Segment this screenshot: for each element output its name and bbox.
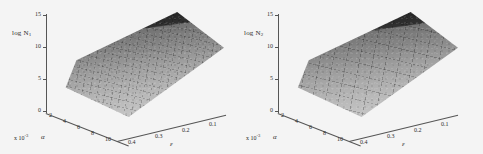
z-tick-label-right-2: 5	[261, 75, 273, 81]
z-axis-label-left: log N1	[12, 29, 31, 37]
x-axis-exponent-power-left: -3	[25, 133, 29, 138]
x-tick-label-right-3: 8	[323, 130, 326, 136]
y-tick-label-left-3: 0.1	[209, 121, 217, 127]
x-axis-name-left: α	[41, 133, 45, 141]
z-axis-label-text-right: log N	[244, 29, 261, 37]
x-axis-exponent-left: x 10-3	[14, 133, 28, 141]
y-tick-label-right-2: 0.2	[414, 127, 422, 133]
z-tick-mark-right-1	[275, 47, 278, 48]
x-tick-label-left-1: 4	[63, 118, 66, 124]
y-tick-label-right-3: 0.1	[441, 121, 449, 127]
z-axis-label-text-left: log N	[12, 29, 29, 37]
x-tick-label-left-2: 6	[77, 124, 80, 130]
z-axis-line-left	[46, 14, 47, 113]
x-axis-exponent-right: x 10-3	[246, 133, 260, 141]
z-axis-label-right: log N2	[244, 29, 263, 37]
surface-texture-right	[276, 12, 458, 117]
z-tick-mark-left-1	[43, 47, 46, 48]
z-axis-label-sub-left: 1	[29, 32, 32, 37]
surface-texture-left	[44, 12, 224, 117]
x-tick-label-left-3: 8	[91, 130, 94, 136]
figure-container: log N1 15 10 5 0 2 4 6 8 10 α x 10-3 0.4…	[0, 0, 483, 154]
surface-mesh-right	[276, 12, 458, 117]
z-tick-mark-right-0	[275, 15, 278, 16]
x-tick-label-right-0: 2	[281, 112, 284, 118]
surface-plot-right: log N2 15 10 5 0 2 4 6 8 10 α x 10-3 0.4…	[242, 0, 483, 154]
y-axis-line-left	[117, 115, 226, 142]
z-tick-mark-left-2	[43, 79, 46, 80]
surface-mesh-left	[44, 12, 224, 117]
x-axis-exponent-base-right: x 10	[246, 135, 257, 141]
x-tick-label-right-4: 10	[337, 136, 343, 142]
z-tick-label-left-2: 5	[29, 75, 41, 81]
z-tick-label-right-3: 0	[261, 107, 273, 113]
y-tick-label-left-2: 0.2	[182, 127, 190, 133]
x-axis-name-right: α	[273, 133, 277, 141]
x-axis-exponent-power-right: -3	[257, 133, 261, 138]
z-tick-mark-left-0	[43, 15, 46, 16]
z-tick-label-right-0: 15	[261, 11, 273, 17]
z-tick-label-left-0: 15	[29, 11, 41, 17]
z-axis-line-right	[278, 14, 279, 113]
x-tick-label-left-4: 10	[105, 136, 111, 142]
z-tick-label-left-1: 10	[29, 43, 41, 49]
x-tick-label-right-2: 6	[309, 124, 312, 130]
x-axis-exponent-base-left: x 10	[14, 135, 25, 141]
y-axis-name-right: ε	[402, 140, 405, 148]
y-tick-label-left-0: 0.4	[128, 139, 136, 145]
y-tick-label-left-1: 0.3	[155, 133, 163, 139]
z-tick-label-right-1: 10	[261, 43, 273, 49]
y-tick-label-right-1: 0.3	[387, 133, 395, 139]
z-tick-label-left-3: 0	[29, 107, 41, 113]
z-tick-mark-right-2	[275, 79, 278, 80]
y-axis-name-left: ε	[170, 140, 173, 148]
x-tick-label-right-1: 4	[295, 118, 298, 124]
y-tick-label-right-0: 0.4	[360, 139, 368, 145]
y-axis-line-right	[349, 115, 458, 142]
surface-plot-left: log N1 15 10 5 0 2 4 6 8 10 α x 10-3 0.4…	[0, 0, 241, 154]
z-axis-label-sub-right: 2	[261, 32, 264, 37]
x-tick-label-left-0: 2	[49, 112, 52, 118]
